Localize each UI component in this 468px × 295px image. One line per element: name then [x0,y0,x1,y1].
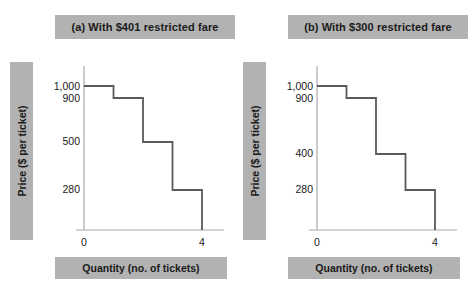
panel-b-ytick-280: 280 [295,183,313,195]
panel-a-ytick-1000: 1,000 [54,80,80,92]
panel-a: (a) With $401 restricted fare Price ($ p… [0,0,232,295]
panel-a-ytick-500: 500 [62,135,80,147]
panel-a-plot-area: 1,000 900 500 280 0 4 [42,58,228,253]
panel-a-xtick-0: 0 [81,236,87,248]
panel-b-plot-area: 1,000 900 400 280 0 4 [275,58,461,253]
panel-b-ytick-1000: 1,000 [287,80,313,92]
panel-a-title: (a) With $401 restricted fare [55,15,235,39]
panel-b-chart-svg: 1,000 900 400 280 0 4 [275,58,461,253]
panel-b-x-axis-label: Quantity (no. of tickets) [288,257,460,279]
panel-b-xtick-0: 0 [314,236,320,248]
panel-a-y-axis-label-text: Price ($ per ticket) [16,105,28,196]
panel-b-xtick-4: 4 [432,236,438,248]
panel-a-x-axis-label: Quantity (no. of tickets) [55,257,227,279]
panel-a-y-axis-label: Price ($ per ticket) [10,62,33,240]
panel-a-step-demand-curve [84,86,202,230]
panel-b-ytick-400: 400 [295,147,313,159]
panel-b-y-axis-label: Price ($ per ticket) [243,62,266,240]
panel-a-chart-svg: 1,000 900 500 280 0 4 [42,58,228,253]
panel-a-xtick-4: 4 [199,236,205,248]
panel-a-ytick-900: 900 [62,92,80,104]
panel-b-step-demand-curve [317,86,435,230]
panel-b-title: (b) With $300 restricted fare [288,15,468,39]
panel-b-ytick-900: 900 [295,92,313,104]
panel-a-ytick-280: 280 [62,183,80,195]
panel-b-y-axis-label-text: Price ($ per ticket) [249,105,261,196]
panel-b: (b) With $300 restricted fare Price ($ p… [233,0,465,295]
